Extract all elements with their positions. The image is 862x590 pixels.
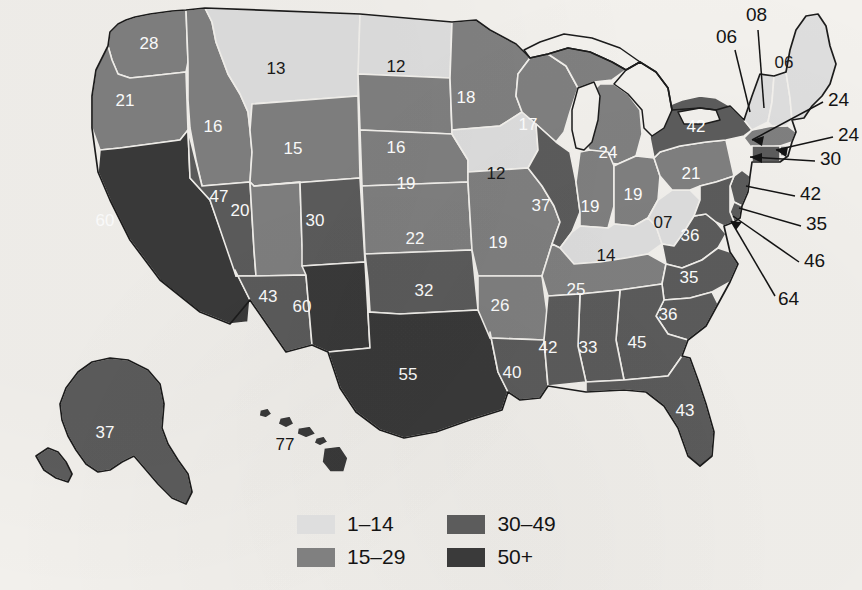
callout-label-NJ: 42	[800, 183, 821, 204]
state-label-IL: 37	[532, 196, 551, 215]
state-label-NY: 42	[687, 117, 706, 136]
state-label-MT: 13	[267, 59, 286, 78]
state-label-AZ: 43	[259, 287, 278, 306]
state-label-VA: 36	[681, 226, 700, 245]
state-label-OR: 21	[116, 91, 135, 110]
hawaii-island-4	[314, 436, 328, 446]
legend-label-2: 15–29	[347, 545, 405, 569]
state-label-TN: 25	[567, 280, 586, 299]
state-label-WV: 07	[654, 213, 673, 232]
state-label-MI: 24	[599, 143, 618, 162]
state-label-PA: 21	[682, 164, 701, 183]
callout-label-RI: 24	[838, 124, 860, 145]
state-label-MS: 42	[539, 338, 558, 357]
state-label-ID: 16	[204, 117, 223, 136]
hawaii-island-3	[297, 426, 316, 438]
callout-label-NH: 06	[716, 26, 737, 47]
state-label-NC: 35	[680, 268, 699, 287]
state-WY[interactable]	[250, 96, 360, 186]
state-label-KS: 22	[406, 229, 425, 248]
state-shapes-layer	[36, 8, 836, 504]
state-label-IA: 12	[487, 164, 506, 183]
state-label-MO: 19	[489, 233, 508, 252]
hawaii-island-2	[278, 416, 294, 428]
state-label-WA: 28	[140, 34, 159, 53]
callout-label-MD: 46	[804, 250, 825, 271]
state-label-OK: 32	[415, 281, 434, 300]
state-label-ND: 12	[387, 57, 406, 76]
state-label-UT: 20	[231, 201, 250, 220]
state-label-OH: 19	[624, 185, 643, 204]
state-AL[interactable]	[578, 290, 624, 382]
state-label-SD: 16	[387, 138, 406, 157]
state-label-CO: 30	[306, 211, 325, 230]
legend-swatch-1	[297, 515, 335, 534]
state-label-SC: 36	[659, 305, 678, 324]
state-label-FL: 43	[676, 401, 695, 420]
state-label-TX: 55	[399, 365, 418, 384]
legend-item-2[interactable]: 15–29	[297, 545, 405, 569]
callout-label-CT: 30	[820, 148, 841, 169]
legend-swatch-4	[447, 548, 485, 567]
state-label-NV: 47	[210, 187, 229, 206]
legend-label-4: 50+	[497, 545, 533, 569]
callout-label-MA: 24	[828, 89, 850, 110]
state-label-GA: 45	[628, 333, 647, 352]
legend-swatch-3	[447, 515, 485, 534]
state-label-AK: 37	[96, 423, 115, 442]
state-label-HI: 77	[276, 435, 295, 454]
legend-label-1: 1–14	[347, 512, 394, 536]
legend-item-1[interactable]: 1–14	[297, 512, 405, 536]
hawaii-island-5	[322, 446, 348, 472]
state-label-MN: 18	[457, 88, 476, 107]
state-label-CA: 60	[96, 211, 115, 230]
callout-label-DE: 35	[806, 213, 827, 234]
callout-arrow-DC	[731, 221, 742, 230]
state-label-IN: 19	[581, 197, 600, 216]
state-label-AL: 33	[579, 338, 598, 357]
state-label-WI: 17	[519, 115, 538, 134]
legend-item-3[interactable]: 30–49	[447, 512, 555, 536]
state-label-AR: 26	[491, 296, 510, 315]
state-label-NE: 19	[397, 174, 416, 193]
callout-label-DC: 64	[778, 288, 800, 309]
us-choropleth-map: 28 21 60 16 47 13 15 20 43 30 60 12 16 1…	[0, 0, 862, 590]
state-HI[interactable]	[259, 408, 348, 472]
legend-label-3: 30–49	[497, 512, 555, 536]
legend-swatch-2	[297, 548, 335, 567]
legend-item-4[interactable]: 50+	[447, 545, 555, 569]
callout-line-DC	[731, 221, 775, 296]
state-AK[interactable]	[60, 358, 192, 504]
callout-line-DE	[739, 208, 801, 226]
map-page: 28 21 60 16 47 13 15 20 43 30 60 12 16 1…	[0, 0, 862, 590]
map-legend: 1–14 30–49 15–29 50+	[297, 512, 556, 569]
callout-line-NJ	[746, 186, 795, 196]
state-label-KY: 14	[597, 246, 616, 265]
state-AR[interactable]	[478, 276, 548, 340]
state-UT[interactable]	[250, 182, 306, 276]
state-label-NM: 60	[293, 297, 312, 316]
state-label-WY: 15	[284, 139, 303, 158]
callout-label-VT: 08	[746, 4, 767, 25]
hawaii-island-1	[259, 408, 272, 418]
state-NM[interactable]	[302, 262, 370, 352]
state-SD[interactable]	[358, 74, 452, 134]
callout-line-NH	[735, 50, 750, 112]
state-label-LA: 40	[503, 363, 522, 382]
state-label-ME: 06	[775, 53, 794, 72]
